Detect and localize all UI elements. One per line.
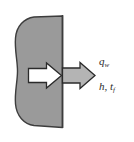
heat-flux-symbol: q <box>99 55 105 67</box>
heat-flux-label: qw <box>99 56 134 67</box>
heat-transfer-boundary-diagram: qw h, tf <box>0 0 134 142</box>
convection-label: h, tf <box>99 81 134 92</box>
heat-flux-subscript: w <box>105 61 110 69</box>
annotation-labels: qw h, tf <box>99 56 134 92</box>
surface-heat-flux-arrow <box>63 63 96 89</box>
fluid-temperature-subscript: f <box>113 86 115 94</box>
label-separator: , <box>105 80 108 92</box>
